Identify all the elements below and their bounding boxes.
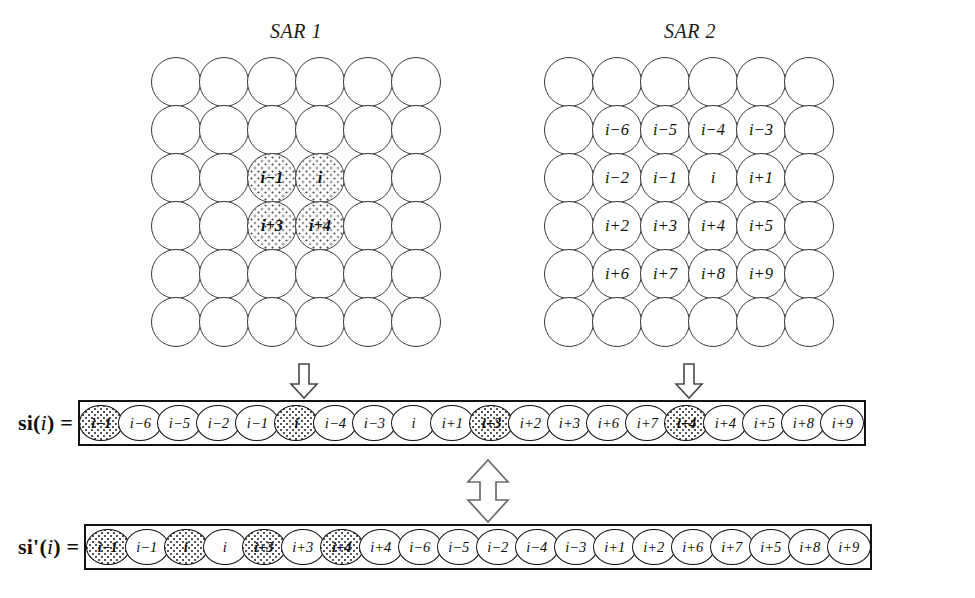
sequence-cell: i+8 <box>781 405 825 441</box>
grid-cell: i−3 <box>736 105 786 155</box>
sequence-cell-label: i−4 <box>325 414 346 431</box>
sequence-cell: i+8 <box>788 529 832 565</box>
sequence-cell-label: i−2 <box>208 414 229 431</box>
grid-cell <box>688 297 738 347</box>
grid-cell <box>784 297 834 347</box>
sequence-cell-label: i+4 <box>370 538 391 555</box>
sequence-cell-label: i+3 <box>254 538 274 555</box>
sequence-cell-label: i+5 <box>760 538 781 555</box>
grid-cell <box>151 105 201 155</box>
grid-cell <box>544 297 594 347</box>
grid-cell <box>343 57 393 107</box>
grid-cell <box>343 153 393 203</box>
grid-cell <box>592 57 642 107</box>
sequence-cell-label: i <box>411 414 415 431</box>
sequence-cell: i−1 <box>125 529 169 565</box>
sequence-cell: i+3 <box>281 529 325 565</box>
sequence-cell: i+2 <box>632 529 676 565</box>
sequence-cell: i−6 <box>118 405 162 441</box>
grid-cell: i+7 <box>640 249 690 299</box>
grid-cell: i+9 <box>736 249 786 299</box>
grid-cell-label: i−3 <box>749 121 773 138</box>
sequence-cell: i−2 <box>476 529 520 565</box>
grid-cell <box>784 201 834 251</box>
sar1-grid: i−1ii+3i+4 <box>152 58 440 346</box>
sar1-title: SAR 1 <box>270 20 322 43</box>
sequence-cell: i−1 <box>235 405 279 441</box>
sequence-cell-label: i−4 <box>526 538 547 555</box>
sequence-cell-shaded: i+4 <box>320 529 364 565</box>
sequence-cell-label: i+4 <box>332 538 352 555</box>
grid-cell-shaded: i <box>295 153 345 203</box>
sequence-cell-label: i+9 <box>838 538 859 555</box>
sequence-cell: i+2 <box>508 405 552 441</box>
sequence-cell-label: i+6 <box>598 414 619 431</box>
grid-cell: i+8 <box>688 249 738 299</box>
seq-label-close: ) <box>47 410 55 435</box>
grid-cell <box>640 57 690 107</box>
sequence-label-si-prime: si'(i) = <box>18 534 79 560</box>
sequence-cell-shaded: i+3 <box>469 405 513 441</box>
grid-cell <box>544 201 594 251</box>
sequence-cell-shaded: i+3 <box>242 529 286 565</box>
sequence-cell-label: i+1 <box>604 538 625 555</box>
grid-cell <box>151 153 201 203</box>
sequence-cell: i−5 <box>437 529 481 565</box>
sequence-cell: i+4 <box>359 529 403 565</box>
seq-label-open: ( <box>39 534 47 559</box>
grid-cell <box>199 153 249 203</box>
sequence-cell-shaded: i <box>164 529 208 565</box>
seq-label-close: ) <box>53 534 61 559</box>
grid-cell-shaded: i−1 <box>247 153 297 203</box>
sar2-title: SAR 2 <box>664 20 716 43</box>
grid-cell <box>784 57 834 107</box>
grid-cell: i−1 <box>640 153 690 203</box>
grid-cell-label: i+9 <box>749 265 773 282</box>
sequence-cell-shaded: i−1 <box>79 405 123 441</box>
grid-cell <box>343 105 393 155</box>
sequence-cell-label: i <box>223 538 227 555</box>
sequence-cell-label: i+9 <box>832 414 853 431</box>
seq-label-name: si <box>18 534 33 559</box>
grid-cell <box>151 57 201 107</box>
sequence-cell: i+1 <box>430 405 474 441</box>
sar2-grid: i−6i−5i−4i−3i−2i−1ii+1i+2i+3i+4i+5i+6i+7… <box>545 58 833 346</box>
sequence-cell: i+3 <box>547 405 591 441</box>
grid-cell <box>151 201 201 251</box>
grid-cell-label: i+3 <box>653 217 677 234</box>
grid-cell: i+6 <box>592 249 642 299</box>
sequence-cell-shaded: i−1 <box>86 529 130 565</box>
sequence-cell: i+5 <box>749 529 793 565</box>
seq-label-equals: = <box>60 410 73 435</box>
sequence-cell-label: i−1 <box>98 538 118 555</box>
grid-cell <box>688 57 738 107</box>
grid-cell <box>343 201 393 251</box>
grid-cell <box>199 57 249 107</box>
sequence-cell-label: i+2 <box>643 538 664 555</box>
grid-cell <box>295 249 345 299</box>
sequence-cell: i <box>391 405 435 441</box>
grid-cell <box>151 297 201 347</box>
grid-cell <box>199 297 249 347</box>
grid-cell <box>391 297 441 347</box>
sequence-cell: i−5 <box>157 405 201 441</box>
grid-cell <box>199 201 249 251</box>
grid-cell-label: i−6 <box>605 121 629 138</box>
sequence-cell-label: i+3 <box>482 414 502 431</box>
up-down-double-arrow-icon <box>466 458 510 528</box>
grid-cell <box>343 249 393 299</box>
sequence-cell-label: i+4 <box>677 414 697 431</box>
sequence-cell: i+1 <box>593 529 637 565</box>
grid-cell <box>592 297 642 347</box>
sequence-cell: i−3 <box>352 405 396 441</box>
grid-cell <box>199 105 249 155</box>
sequence-cell-label: i+4 <box>715 414 736 431</box>
sequence-cell: i <box>203 529 247 565</box>
grid-cell: i+3 <box>640 201 690 251</box>
down-arrow-icon <box>287 362 321 404</box>
grid-cell <box>736 57 786 107</box>
sequence-cell-label: i−5 <box>448 538 469 555</box>
grid-cell-label: i−5 <box>653 121 677 138</box>
sequence-cell-label: i−6 <box>130 414 151 431</box>
sequence-cell-label: i+3 <box>559 414 580 431</box>
